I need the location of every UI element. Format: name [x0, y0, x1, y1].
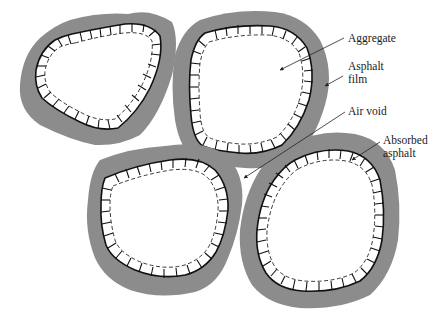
label-asphalt-film-2: film: [348, 73, 367, 85]
label-air-void: Air void: [348, 105, 387, 117]
particle-bottom-left: [87, 144, 242, 295]
label-aggregate: Aggregate: [348, 32, 396, 45]
label-absorbed-asphalt-2: asphalt: [383, 147, 416, 160]
aggregate-particle: [101, 159, 228, 277]
label-absorbed-asphalt-1: Absorbed: [383, 134, 428, 146]
particle-top-left: [20, 12, 176, 145]
asphalt-aggregate-diagram: Aggregate Asphalt film Air void Absorbed…: [0, 0, 445, 315]
label-asphalt-film-1: Asphalt: [348, 60, 385, 73]
